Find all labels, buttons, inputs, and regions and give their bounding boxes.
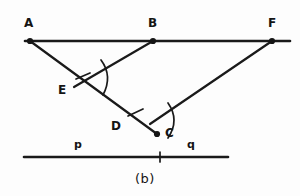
vertex-dot-a	[27, 38, 33, 44]
vertex-dot-c	[154, 131, 160, 137]
point-label-b: B	[148, 17, 157, 29]
angle-marks-group	[76, 60, 174, 138]
angle-arc-at-e	[101, 60, 108, 95]
angle-tick-at-d	[128, 109, 143, 116]
point-label-a: A	[24, 17, 33, 29]
point-label-d: D	[111, 120, 121, 132]
vertex-dot-b	[150, 38, 156, 44]
segment-b-to-e	[74, 41, 153, 87]
point-label-f: F	[268, 17, 276, 29]
figure-caption: (b)	[135, 172, 155, 185]
vertex-dot-f	[269, 38, 275, 44]
point-label-c: C	[165, 127, 174, 139]
geometry-figure: A B F E D C p q (b)	[0, 0, 300, 196]
line-label-p: p	[74, 139, 82, 150]
point-label-e: E	[58, 84, 66, 96]
line-label-q: q	[187, 139, 195, 150]
segment-a-to-c	[30, 41, 157, 134]
bottom-line-group	[24, 152, 228, 162]
segment-f-to-c	[150, 41, 272, 124]
